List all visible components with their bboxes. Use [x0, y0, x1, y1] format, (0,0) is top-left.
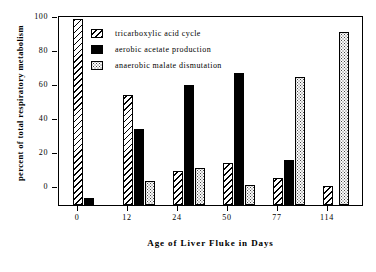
- bar-group-114: [323, 17, 363, 205]
- x-tick-label: 77: [257, 213, 297, 223]
- y-tick-mark: [52, 119, 57, 120]
- legend-label: anaerobic malate dismutation: [115, 61, 222, 70]
- y-tick-label: 80: [8, 47, 48, 55]
- x-tick-mark: [277, 206, 278, 211]
- legend-item-aerobic-acetate-production: aerobic acetate production: [91, 41, 276, 57]
- bar-tricarboxylic-acid-cycle: [323, 186, 333, 205]
- bar-tricarboxylic-acid-cycle: [73, 19, 83, 205]
- legend-label: tricarboxylic acid cycle: [115, 29, 201, 38]
- bar-anaerobic-malate-dismutation: [195, 168, 205, 205]
- legend-label: aerobic acetate production: [115, 45, 211, 54]
- bar-anaerobic-malate-dismutation: [339, 32, 349, 205]
- bar-tricarboxylic-acid-cycle: [273, 178, 283, 205]
- legend-swatch-dotted-icon: [91, 61, 103, 70]
- y-tick-mark: [52, 85, 57, 86]
- y-tick-mark: [52, 51, 57, 52]
- bar-aerobic-acetate-production: [134, 129, 144, 205]
- plot-area: tricarboxylic acid cycle aerobic acetate…: [58, 16, 363, 206]
- x-tick-mark: [327, 206, 328, 211]
- bar-anaerobic-malate-dismutation: [145, 181, 155, 205]
- y-axis-title: percent of total respiratory metabolism: [12, 0, 28, 206]
- x-tick-label: 114: [307, 213, 347, 223]
- x-axis-title: Age of Liver Fluke in Days: [58, 238, 363, 248]
- x-tick-label: 0: [57, 213, 97, 223]
- y-tick-label: 100: [8, 13, 48, 21]
- bar-aerobic-acetate-production: [284, 160, 294, 205]
- legend-swatch-hatch-icon: [91, 29, 103, 38]
- y-tick-label: 40: [8, 115, 48, 123]
- x-tick-mark: [77, 206, 78, 211]
- bar-tricarboxylic-acid-cycle: [123, 95, 133, 205]
- bar-aerobic-acetate-production: [234, 73, 244, 206]
- y-tick-label: 20: [8, 149, 48, 157]
- legend-item-tricarboxylic-acid-cycle: tricarboxylic acid cycle: [91, 25, 276, 41]
- x-tick-label: 50: [207, 213, 247, 223]
- y-tick-label: 60: [8, 81, 48, 89]
- x-tick-mark: [227, 206, 228, 211]
- y-tick-mark: [52, 153, 57, 154]
- legend-swatch-solid-icon: [91, 45, 103, 54]
- bar-aerobic-acetate-production: [184, 85, 194, 205]
- x-tick-mark: [127, 206, 128, 211]
- bar-tricarboxylic-acid-cycle: [173, 171, 183, 205]
- legend-item-anaerobic-malate-dismutation: anaerobic malate dismutation: [91, 57, 276, 73]
- x-tick-label: 24: [157, 213, 197, 223]
- bar-aerobic-acetate-production: [84, 198, 94, 206]
- x-tick-label: 12: [107, 213, 147, 223]
- bar-anaerobic-malate-dismutation: [295, 77, 305, 205]
- bar-group-77: [273, 17, 313, 205]
- bar-chart-figure: percent of total respiratory metabolism …: [0, 0, 376, 272]
- legend: tricarboxylic acid cycle aerobic acetate…: [91, 25, 276, 73]
- x-tick-mark: [177, 206, 178, 211]
- y-tick-label: 0: [8, 183, 48, 191]
- y-tick-mark: [52, 187, 57, 188]
- bar-tricarboxylic-acid-cycle: [223, 163, 233, 205]
- bar-anaerobic-malate-dismutation: [245, 185, 255, 205]
- y-tick-mark: [52, 17, 57, 18]
